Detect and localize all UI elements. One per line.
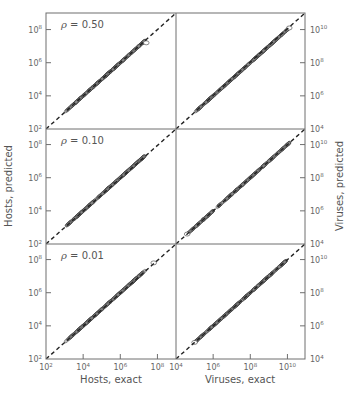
tick-label: 108 <box>28 139 42 150</box>
tick-label: 102 <box>39 362 53 373</box>
panel-viruses-rho-0.01 <box>176 244 305 359</box>
tick-label: 108 <box>151 362 165 373</box>
tick-label: 108 <box>28 254 42 265</box>
tick-label: 102 <box>28 239 42 250</box>
y-axis-title-viruses: Viruses, predicted <box>334 141 345 231</box>
tick-label: 106 <box>310 320 324 331</box>
tick-label: 108 <box>28 24 42 35</box>
rho-label-0.01: ρ = 0.01 <box>60 250 104 261</box>
tick-label: 104 <box>28 320 42 331</box>
tick-label: 106 <box>28 57 42 68</box>
identity-line <box>46 13 176 129</box>
tick-label: 108 <box>310 57 324 68</box>
panel-hosts-rho-0.1 <box>46 129 176 244</box>
tick-label: 106 <box>206 362 220 373</box>
tick-label: 104 <box>310 124 324 135</box>
identity-line <box>176 13 305 129</box>
tick-label: 108 <box>310 172 324 183</box>
tick-label: 104 <box>28 90 42 101</box>
tick-label: 1010 <box>310 254 328 265</box>
tick-label: 108 <box>243 362 257 373</box>
chart-frame <box>46 13 305 359</box>
panel-viruses-rho-0.1 <box>176 129 305 244</box>
axis-ticks: 1021041061081041061081010102104106108104… <box>28 24 327 372</box>
tick-label: 104 <box>76 362 90 373</box>
tick-label: 108 <box>310 287 324 298</box>
tick-label: 104 <box>310 239 324 250</box>
tick-label: 104 <box>310 354 324 365</box>
tick-label: 106 <box>310 90 324 101</box>
tick-label: 106 <box>28 172 42 183</box>
panel-hosts-rho-0.5 <box>46 13 176 129</box>
y-axis-title-hosts: Hosts, predicted <box>3 145 14 227</box>
tick-label: 102 <box>28 124 42 135</box>
tick-label: 104 <box>28 205 42 216</box>
rho-label-0.50: ρ = 0.50 <box>60 19 104 30</box>
x-axis-title-hosts: Hosts, exact <box>80 374 142 385</box>
tick-label: 1010 <box>279 362 297 373</box>
tick-label: 106 <box>28 287 42 298</box>
tick-label: 104 <box>169 362 183 373</box>
chart-figure: 1021041061081041061081010102104106108104… <box>0 0 355 399</box>
tick-label: 106 <box>113 362 127 373</box>
x-axis-title-viruses: Viruses, exact <box>205 374 275 385</box>
tick-label: 1010 <box>310 24 328 35</box>
tick-label: 1010 <box>310 139 328 150</box>
panel-hosts-rho-0.01 <box>46 244 176 359</box>
outlier-point <box>143 41 149 45</box>
tick-label: 106 <box>310 205 324 216</box>
rho-label-0.10: ρ = 0.10 <box>60 135 104 146</box>
panel-viruses-rho-0.5 <box>176 13 305 129</box>
